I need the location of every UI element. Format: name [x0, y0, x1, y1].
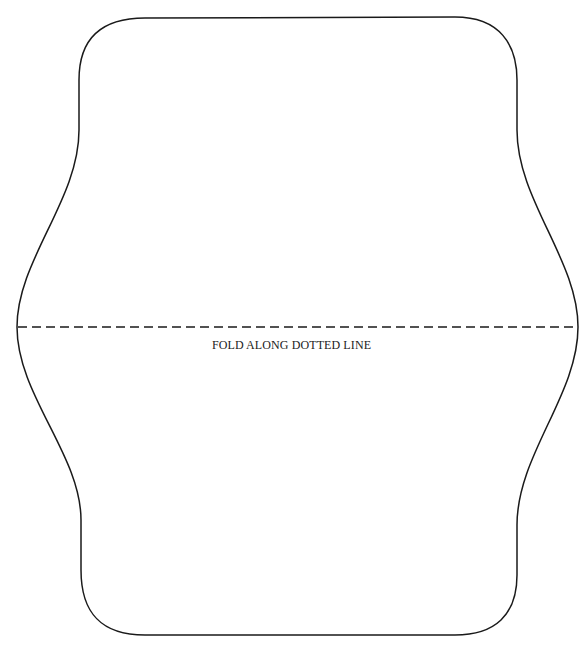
- template-canvas: [0, 0, 583, 646]
- template-outline: [17, 17, 578, 635]
- fold-instruction-label: FOLD ALONG DOTTED LINE: [0, 338, 583, 353]
